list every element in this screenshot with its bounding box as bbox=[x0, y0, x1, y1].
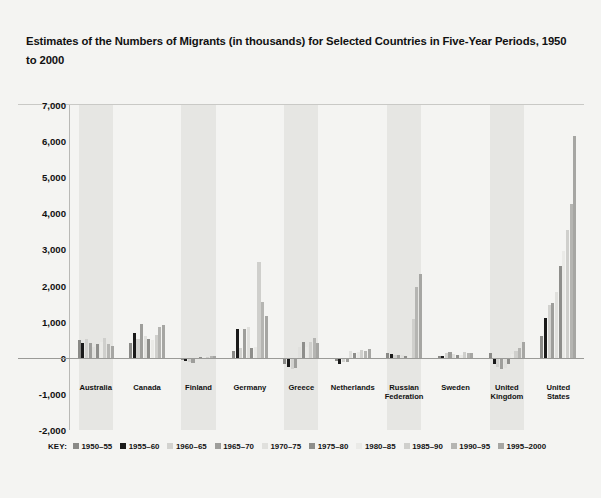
legend-label: 1985–90 bbox=[412, 442, 443, 451]
bar bbox=[144, 336, 147, 358]
bar bbox=[232, 351, 235, 358]
bar bbox=[368, 349, 371, 357]
bar bbox=[548, 305, 551, 357]
category-label-russian-federation: RussianFederation bbox=[380, 383, 428, 402]
bar bbox=[555, 292, 558, 358]
y-tick-label: -1,000 bbox=[22, 388, 66, 399]
bar bbox=[155, 335, 158, 357]
bar bbox=[261, 302, 264, 358]
bar bbox=[360, 350, 363, 358]
bar bbox=[415, 287, 418, 358]
category-label-united-states: UnitedStates bbox=[534, 383, 582, 402]
bar bbox=[133, 333, 136, 358]
legend-item[interactable]: 1970–75 bbox=[262, 442, 301, 451]
chart-page: Estimates of the Numbers of Migrants (in… bbox=[0, 0, 601, 498]
bar bbox=[562, 251, 565, 358]
y-tick-label: -2,000 bbox=[22, 425, 66, 436]
bar bbox=[129, 343, 132, 358]
y-axis-labels: -2,000-1,00001,0002,0003,0004,0005,0006,… bbox=[18, 105, 66, 430]
bar bbox=[291, 358, 294, 369]
bar bbox=[364, 351, 367, 358]
legend-item[interactable]: 1955–60 bbox=[120, 442, 159, 451]
legend-item[interactable]: 1950–55 bbox=[73, 442, 112, 451]
legend-swatch-icon bbox=[167, 443, 173, 449]
y-tick-label: 1,000 bbox=[22, 316, 66, 327]
legend-swatch-icon bbox=[73, 443, 79, 449]
y-tick-label: 3,000 bbox=[22, 244, 66, 255]
legend-label: 1990–95 bbox=[459, 442, 490, 451]
legend-item[interactable]: 1965–70 bbox=[215, 442, 254, 451]
legend-label: 1995–2000 bbox=[507, 442, 547, 451]
plot-frame: -2,000-1,00001,0002,0003,0004,0005,0006,… bbox=[18, 104, 584, 429]
bar bbox=[419, 274, 422, 357]
legend-swatch-icon bbox=[120, 443, 126, 449]
bar bbox=[298, 347, 301, 358]
legend-label: 1980–85 bbox=[365, 442, 396, 451]
category-band bbox=[79, 105, 113, 430]
bar bbox=[309, 342, 312, 358]
bar bbox=[236, 329, 239, 358]
legend-item[interactable]: 1980–85 bbox=[356, 442, 395, 451]
category-band bbox=[284, 105, 318, 430]
bar bbox=[316, 343, 319, 358]
bar bbox=[147, 339, 150, 358]
bar bbox=[162, 325, 165, 358]
bar bbox=[265, 316, 268, 358]
bar bbox=[243, 329, 246, 358]
bar bbox=[504, 358, 507, 368]
bar bbox=[85, 339, 88, 358]
legend-item[interactable]: 1975–80 bbox=[309, 442, 348, 451]
plot-area bbox=[70, 105, 584, 430]
bar bbox=[100, 342, 103, 358]
category-label-netherlands: Netherlands bbox=[329, 383, 377, 393]
bar bbox=[566, 230, 569, 358]
y-tick-label: 2,000 bbox=[22, 280, 66, 291]
legend-swatch-icon bbox=[498, 443, 504, 449]
bar bbox=[103, 338, 106, 358]
legend-swatch-icon bbox=[404, 443, 410, 449]
legend-label: 1965–70 bbox=[223, 442, 254, 451]
category-band bbox=[387, 105, 421, 430]
zero-axis-line bbox=[18, 358, 584, 359]
bar bbox=[573, 136, 576, 358]
legend-swatch-icon bbox=[451, 443, 457, 449]
legend-item[interactable]: 1960–65 bbox=[167, 442, 206, 451]
y-tick-label: 6,000 bbox=[22, 136, 66, 147]
bar bbox=[544, 318, 547, 358]
legend-swatch-icon bbox=[262, 443, 268, 449]
bar bbox=[294, 358, 297, 368]
legend-label: 1975–80 bbox=[318, 442, 349, 451]
bar bbox=[287, 358, 290, 367]
bar bbox=[111, 346, 114, 358]
bar bbox=[496, 358, 499, 367]
legend-key-label: KEY: bbox=[48, 442, 67, 451]
category-label-greece: Greece bbox=[277, 383, 325, 393]
category-band bbox=[490, 105, 524, 430]
bar bbox=[81, 343, 84, 358]
bar bbox=[239, 348, 242, 357]
category-label-australia: Australia bbox=[72, 383, 120, 393]
legend-item[interactable]: 1985–90 bbox=[404, 442, 443, 451]
bar bbox=[257, 262, 260, 358]
bar bbox=[518, 348, 521, 357]
bar bbox=[140, 324, 143, 358]
bar bbox=[559, 266, 562, 358]
chart-legend: KEY: 1950–551955–601960–651965–701970–75… bbox=[18, 436, 584, 456]
bar bbox=[158, 327, 161, 357]
bar bbox=[522, 342, 525, 358]
bar bbox=[78, 340, 81, 357]
bar bbox=[151, 340, 154, 357]
bar bbox=[96, 344, 99, 358]
legend-swatch-icon bbox=[215, 443, 221, 449]
bar bbox=[136, 339, 139, 358]
legend-label: 1950–55 bbox=[81, 442, 112, 451]
bar bbox=[247, 327, 250, 358]
category-label-finland: Finland bbox=[174, 383, 222, 393]
category-label-united-kingdom: UnitedKingdom bbox=[483, 383, 531, 402]
legend-item[interactable]: 1990–95 bbox=[451, 442, 490, 451]
bar bbox=[107, 344, 110, 358]
bar bbox=[305, 347, 308, 358]
bar bbox=[412, 319, 415, 358]
legend-item[interactable]: 1995–2000 bbox=[498, 442, 546, 451]
category-label-sweden: Sweden bbox=[431, 383, 479, 393]
